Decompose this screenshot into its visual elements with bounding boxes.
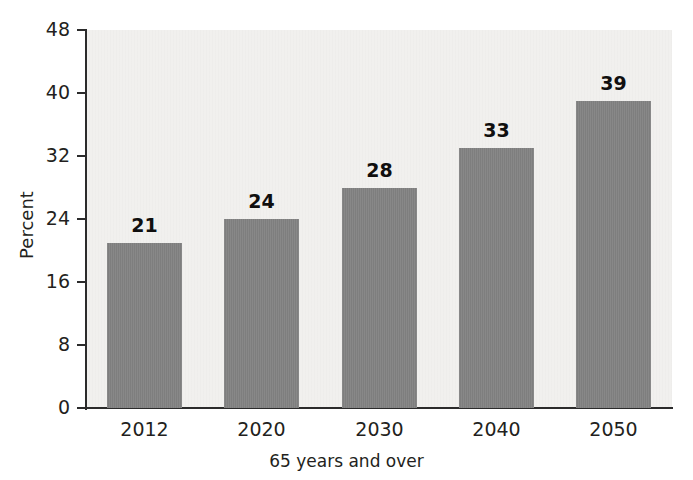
y-axis-tick-label: 40 <box>0 83 70 102</box>
bar <box>107 243 182 408</box>
bar-value-label: 33 <box>429 121 564 140</box>
bar-value-label: 39 <box>546 74 681 93</box>
y-axis-tick <box>77 92 86 94</box>
y-axis-tick-label-text: 0 <box>0 398 70 417</box>
y-axis-title: Percent <box>18 165 36 285</box>
x-axis-title: 65 years and over <box>0 452 693 470</box>
bar-value-label: 21 <box>77 216 212 235</box>
y-axis-tick-label-text: 48 <box>0 20 70 39</box>
x-axis-tick-label: 2012 <box>77 419 212 439</box>
y-axis-tick <box>77 281 86 283</box>
bar-value-label: 28 <box>312 161 447 180</box>
bar <box>459 148 534 408</box>
y-axis-tick-label: 48 <box>0 20 70 39</box>
bar-chart: 484032241680 Percent 2124283339 20122020… <box>0 0 693 480</box>
y-axis-tick <box>77 407 86 409</box>
x-axis-tick-label: 2030 <box>312 419 447 439</box>
y-axis-tick-label-text: 8 <box>0 335 70 354</box>
y-axis-tick <box>77 344 86 346</box>
y-axis-tick-label: 8 <box>0 335 70 354</box>
x-axis-tick-label: 2020 <box>194 419 329 439</box>
x-axis-tick-label: 2050 <box>546 419 681 439</box>
y-axis-tick-label-text: 40 <box>0 83 70 102</box>
y-axis-tick-label: 32 <box>0 146 70 165</box>
y-axis-tick <box>77 29 86 31</box>
bar-value-label: 24 <box>194 192 329 211</box>
x-axis-tick-label: 2040 <box>429 419 564 439</box>
y-axis-tick-label-text: 32 <box>0 146 70 165</box>
y-axis-tick-label: 0 <box>0 398 70 417</box>
bar <box>576 101 651 408</box>
y-axis-tick <box>77 155 86 157</box>
bar <box>224 219 299 408</box>
bar <box>342 188 417 409</box>
